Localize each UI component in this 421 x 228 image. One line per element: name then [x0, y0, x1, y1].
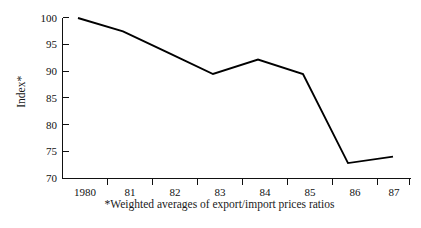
x-axis-ticks	[108, 179, 410, 185]
x-tick-label-87: 87	[389, 186, 401, 198]
line-chart-figure: 100 95 90 85 80 75 70 1980 81 82 83 84 8…	[0, 0, 421, 228]
y-axis-title: Index*	[16, 62, 28, 122]
x-tick-label-83: 83	[215, 186, 227, 198]
x-tick-label-1980: 1980	[74, 186, 97, 198]
x-tick-label-84: 84	[260, 186, 272, 198]
x-tick-label-82: 82	[170, 186, 181, 198]
chart-axes	[63, 18, 411, 179]
data-series-line	[78, 18, 393, 163]
y-tick-label-75: 75	[46, 145, 58, 157]
y-tick-label-80: 80	[46, 119, 58, 131]
x-tick-label-81: 81	[125, 186, 136, 198]
y-tick-label-90: 90	[46, 65, 58, 77]
y-axis-ticks	[63, 18, 69, 179]
y-tick-label-100: 100	[41, 12, 58, 24]
x-tick-label-86: 86	[350, 186, 362, 198]
y-tick-label-85: 85	[46, 92, 58, 104]
y-axis-tick-labels: 100 95 90 85 80 75 70	[41, 12, 58, 185]
x-axis-tick-labels: 1980 81 82 83 84 85 86 87	[74, 186, 400, 198]
x-tick-label-85: 85	[305, 186, 317, 198]
y-tick-label-95: 95	[46, 38, 58, 50]
y-tick-label-70: 70	[46, 172, 58, 184]
chart-footnote: *Weighted averages of export/import pric…	[0, 198, 421, 210]
chart-plot-area: 100 95 90 85 80 75 70 1980 81 82 83 84 8…	[0, 0, 421, 228]
